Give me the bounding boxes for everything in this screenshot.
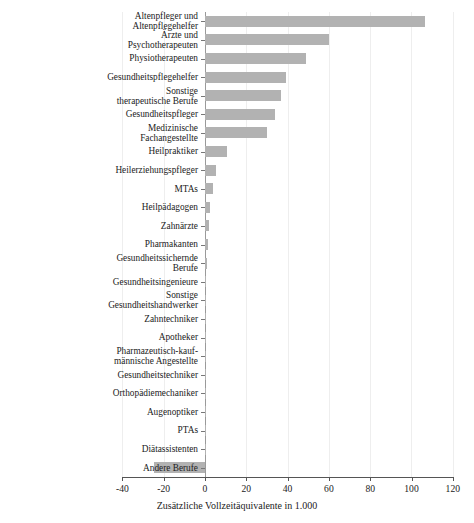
bar [205,295,206,306]
x-tick-mark [164,477,165,481]
bar [205,109,275,120]
x-tick-label: -40 [102,483,142,494]
x-tick-mark [122,477,123,481]
x-tick-mark [453,477,454,481]
category-label: Heilerziehungspfleger [115,165,198,175]
bar [205,425,206,436]
y-tick-mark [201,207,205,208]
y-tick-mark [201,431,205,432]
y-tick-mark [201,375,205,376]
y-tick-mark [201,338,205,339]
bar [205,90,281,101]
category-label: Gesundheitstechniker [117,370,198,380]
category-label: Zahntechniker [144,314,198,324]
bar [205,258,207,269]
category-label: Sonstige Gesundheitshandwerker [108,290,198,310]
category-label: Gesundheitsingenieure [113,277,198,287]
x-tick-mark [412,477,413,481]
gridline-x-100 [411,12,412,477]
category-label: Physiotherapeuten [129,53,198,63]
bar [205,72,286,83]
bar [205,165,216,176]
x-tick-mark [288,477,289,481]
y-tick-mark [201,245,205,246]
category-label: Ärzte und Psychotherapeuten [128,30,198,50]
gridline-x-80 [370,12,371,477]
y-tick-mark [201,96,205,97]
bar [205,444,206,455]
category-label: Pharmazeutisch-kauf- männische Angestell… [114,346,198,366]
y-tick-mark [201,449,205,450]
category-label: Andere Berufe [143,463,198,473]
bar [205,16,425,27]
x-tick-label: 40 [268,483,308,494]
category-label: Apotheker [159,332,198,342]
x-tick-label: 20 [226,483,266,494]
x-tick-mark [329,477,330,481]
bar [205,332,206,343]
bar [205,183,213,194]
x-tick-label: 0 [185,483,225,494]
gridline-x-40 [288,12,289,477]
y-tick-mark [201,77,205,78]
category-label: Sonstige therapeutische Berufe [117,86,198,106]
category-label: Pharmakanten [145,239,198,249]
bar [205,34,329,45]
x-axis-title: Zusätzliche Vollzeitäquivalente in 1.000 [0,500,474,511]
y-tick-mark [201,152,205,153]
y-tick-mark [201,393,205,394]
x-tick-label: 120 [433,483,473,494]
x-tick-label: 80 [350,483,390,494]
y-tick-mark [201,412,205,413]
category-label: Altenpfleger und Altenpflegehelfer [132,11,198,31]
category-label: Medizinische Fachangestellte [140,123,198,143]
bar [205,388,206,399]
y-tick-mark [201,300,205,301]
bar [205,406,206,417]
bar [205,202,210,213]
x-tick-mark [246,477,247,481]
y-tick-mark [201,114,205,115]
y-tick-mark [201,21,205,22]
bar [205,369,206,380]
bar [205,146,227,157]
y-tick-mark [201,282,205,283]
category-label: Zahnärzte [161,221,198,231]
bar [205,127,267,138]
bar-chart: Zusätzliche Vollzeitäquivalente in 1.000… [0,0,474,523]
y-tick-mark [201,468,205,469]
category-label: Gesundheitspfleger [126,109,198,119]
x-tick-label: -20 [144,483,184,494]
x-tick-mark [370,477,371,481]
x-tick-label: 100 [392,483,432,494]
gridline-x-120 [453,12,454,477]
y-tick-mark [201,356,205,357]
category-label: PTAs [178,425,198,435]
category-label: Heilpraktiker [148,146,198,156]
category-label: Heilpädagogen [142,202,198,212]
y-tick-mark [201,59,205,60]
bar [205,220,209,231]
category-label: MTAs [174,184,198,194]
category-label: Augenoptiker [147,407,198,417]
bar [205,276,206,287]
y-tick-mark [201,133,205,134]
x-tick-label: 60 [309,483,349,494]
gridline-x-60 [329,12,330,477]
bar [205,239,208,250]
bar [205,313,206,324]
y-tick-mark [201,263,205,264]
y-tick-mark [201,189,205,190]
y-tick-mark [201,170,205,171]
bar [205,53,306,64]
y-tick-mark [201,40,205,41]
y-tick-mark [201,226,205,227]
x-tick-mark [205,477,206,481]
category-label: Gesundheitssichernde Berufe [116,253,198,273]
bar [205,351,206,362]
category-label: Diätassistenten [142,444,198,454]
y-tick-mark [201,319,205,320]
category-label: Gesundheitspflegehelfer [107,72,198,82]
category-label: Orthopädiemechaniker [113,388,198,398]
